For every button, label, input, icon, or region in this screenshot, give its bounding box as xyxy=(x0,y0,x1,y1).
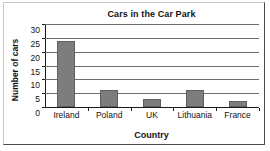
gridline xyxy=(45,93,259,94)
gridline xyxy=(45,79,259,80)
y-tick-mark xyxy=(42,38,45,39)
y-tick-mark xyxy=(42,66,45,67)
bar-lithuania xyxy=(186,90,204,107)
y-tick-mark xyxy=(42,52,45,53)
bar-france xyxy=(229,101,247,107)
y-axis-title: Number of cars xyxy=(10,30,20,110)
x-tick-mark xyxy=(173,108,174,111)
y-tick-mark xyxy=(42,93,45,94)
y-tick-mark xyxy=(42,107,45,108)
gridline xyxy=(45,38,259,39)
y-tick-mark xyxy=(42,24,45,25)
gridline xyxy=(45,52,259,53)
bar-uk xyxy=(143,99,161,107)
gridline xyxy=(45,66,259,67)
x-axis-line xyxy=(45,107,259,108)
x-tick-label-france: France xyxy=(224,110,250,120)
bar-ireland xyxy=(57,41,75,107)
x-axis-title: Country xyxy=(44,130,259,140)
x-tick-label-poland: Poland xyxy=(96,110,122,120)
chart-title: Cars in the Car Park xyxy=(44,9,259,19)
x-tick-mark xyxy=(88,108,89,111)
bar-poland xyxy=(100,90,118,107)
gridline xyxy=(45,24,259,25)
x-tick-mark xyxy=(259,108,260,111)
x-tick-mark xyxy=(131,108,132,111)
x-tick-label-uk: UK xyxy=(146,110,158,120)
plot-area: 051015202530 xyxy=(45,24,259,108)
y-tick-mark xyxy=(42,79,45,80)
chart-frame: Cars in the Car Park Number of cars Coun… xyxy=(3,2,265,145)
x-tick-label-lithuania: Lithuania xyxy=(178,110,213,120)
x-tick-label-ireland: Ireland xyxy=(53,110,79,120)
x-tick-mark xyxy=(216,108,217,111)
